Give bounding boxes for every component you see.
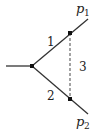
label-line-1: 1	[47, 35, 55, 49]
feynman-diagram: 1 2 3 p 1 p 2	[0, 0, 94, 133]
label-p2-sub: 2	[84, 121, 90, 131]
line-1	[32, 19, 88, 66]
label-line-3: 3	[79, 60, 87, 74]
label-p1-sub: 1	[84, 8, 90, 18]
diagram-canvas: 1 2 3 p 1 p 2	[0, 0, 94, 133]
vertex-dot	[30, 64, 34, 68]
bottom-dot	[68, 97, 72, 101]
top-dot	[68, 31, 72, 35]
label-line-2: 2	[47, 89, 55, 103]
